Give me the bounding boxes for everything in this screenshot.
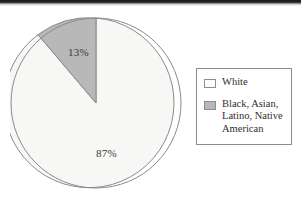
legend-swatch-gray-icon (204, 101, 216, 110)
legend-item-white: White (204, 76, 285, 89)
pie-label-major: 87% (96, 147, 117, 159)
chart-page: 13% 87% White Black, Asian, Latino, Nati… (0, 0, 301, 211)
legend-swatch-white-icon (204, 79, 216, 88)
legend-label-minority: Black, Asian, Latino, Native American (222, 98, 283, 136)
pie-chart: 13% 87% (10, 17, 182, 189)
legend-box: White Black, Asian, Latino, Native Ameri… (196, 68, 292, 145)
scan-edge-shadow (0, 4, 301, 6)
legend-label-white: White (222, 76, 248, 89)
pie-label-minor: 13% (68, 46, 89, 58)
pie-svg (10, 17, 182, 189)
legend-item-minority: Black, Asian, Latino, Native American (204, 98, 285, 136)
